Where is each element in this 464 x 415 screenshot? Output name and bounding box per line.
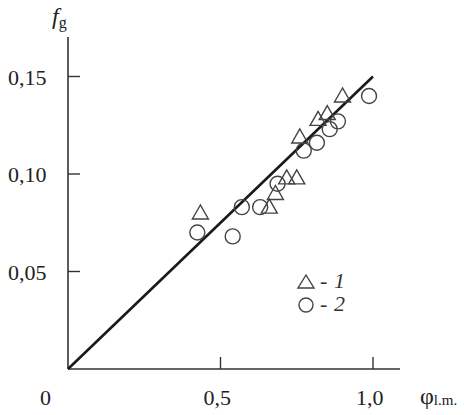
circle-marker-icon	[296, 143, 311, 158]
data-markers	[190, 88, 377, 244]
x-tick-label: 0,5	[204, 385, 232, 410]
legend-item-1: - 1	[298, 268, 345, 293]
triangle-marker-icon	[192, 205, 208, 219]
circle-marker-icon	[299, 298, 313, 312]
x-ticks: 0,51,0	[204, 357, 384, 410]
regression-line	[68, 77, 373, 370]
x-tick-label: 1,0	[356, 385, 384, 410]
circle-marker-icon	[225, 229, 240, 244]
axes	[68, 37, 400, 369]
x-axis-title-main: φ	[420, 383, 434, 409]
origin-label: 0	[40, 385, 51, 410]
circle-marker-icon	[330, 114, 345, 129]
y-tick-label: 0,05	[8, 260, 47, 285]
triangle-marker-icon	[267, 186, 283, 200]
triangle-marker-icon	[298, 275, 314, 288]
legend: - 1 - 2	[298, 268, 345, 316]
chart-canvas: 0,050,100,15 0,51,0 0 fg φl.m. - 1 - 2	[0, 0, 464, 415]
legend-label: 2	[334, 291, 345, 316]
legend-item-2: - 2	[299, 291, 345, 316]
y-tick-label: 0,15	[8, 65, 47, 90]
circle-marker-icon	[190, 225, 205, 240]
legend-dash: -	[320, 291, 327, 316]
fit-line	[68, 77, 373, 370]
x-axis-title-sub: l.m.	[434, 392, 457, 408]
x-axis-title: φl.m.	[420, 383, 457, 409]
circle-marker-icon	[322, 122, 337, 137]
circle-marker-icon	[362, 89, 377, 104]
legend-dash: -	[320, 268, 327, 293]
y-axis-title: fg	[52, 3, 67, 32]
y-tick-label: 0,10	[8, 162, 47, 187]
y-axis-title-sub: g	[59, 14, 67, 32]
circle-marker-icon	[309, 135, 324, 150]
y-ticks: 0,050,100,15	[8, 65, 80, 285]
legend-label: 1	[334, 268, 345, 293]
